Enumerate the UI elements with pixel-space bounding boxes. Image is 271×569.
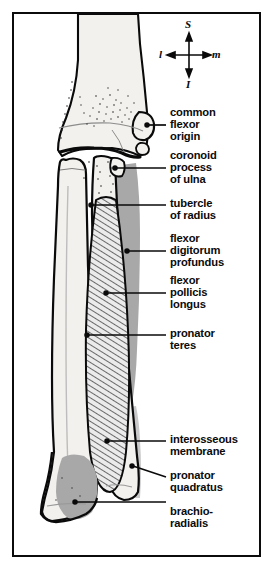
compass-arrows — [167, 33, 211, 77]
epicondyle-tubercle — [136, 143, 149, 155]
compass-lateral-label: l — [159, 48, 162, 60]
label-flexor-digitorum-profundus: flexor digitorum profundus — [170, 233, 224, 269]
label-coronoid-process-of-ulna: coronoid process of ulna — [170, 150, 217, 186]
label-pronator-teres: pronator teres — [170, 328, 215, 352]
label-flexor-pollicis-longus: flexor pollicis longus — [170, 275, 207, 311]
compass-superior-label: S — [185, 18, 191, 30]
label-tubercle-of-radius: tubercle of radius — [170, 198, 216, 222]
label-common-flexor-origin: common flexor origin — [170, 107, 216, 143]
compass-inferior-label: I — [186, 78, 190, 90]
compass-medial-label: m — [212, 48, 221, 60]
forearm-illustration — [0, 0, 271, 569]
label-pronator-quadratus: pronator quadratus — [170, 470, 223, 494]
label-interosseous-membrane: interosseous membrane — [170, 434, 238, 458]
medial-epicondyle — [133, 112, 154, 140]
label-brachioradialis: brachio- radialis — [170, 506, 213, 530]
anatomical-figure: S I l m common flexor origin coronoid pr… — [0, 0, 271, 569]
